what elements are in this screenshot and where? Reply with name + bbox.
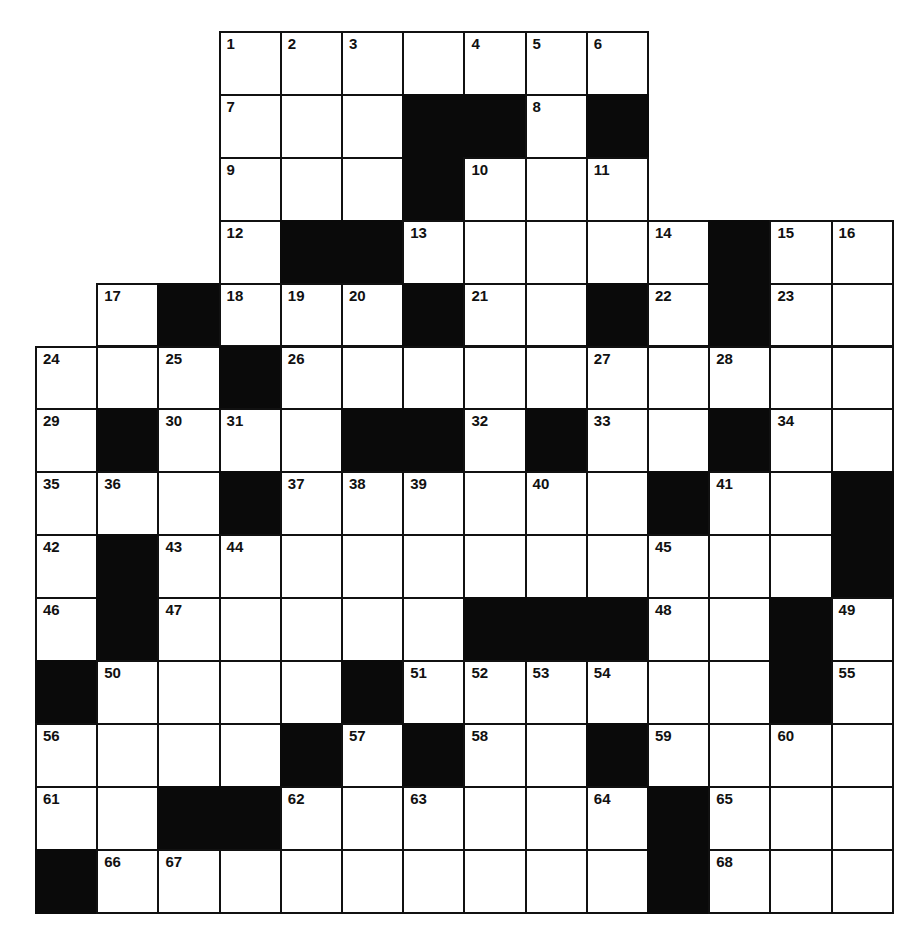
grid-cell[interactable]	[341, 849, 404, 914]
grid-cell[interactable]	[463, 534, 526, 599]
grid-cell[interactable]	[463, 471, 526, 536]
grid-cell[interactable]: 20	[341, 283, 404, 348]
grid-cell[interactable]	[280, 660, 343, 725]
grid-cell[interactable]	[831, 283, 894, 348]
grid-cell[interactable]: 53	[525, 660, 588, 725]
grid-cell[interactable]	[280, 157, 343, 222]
grid-cell[interactable]: 30	[157, 408, 220, 473]
grid-cell[interactable]: 42	[35, 534, 98, 599]
grid-cell[interactable]	[280, 94, 343, 159]
grid-cell[interactable]	[402, 597, 465, 662]
grid-cell[interactable]: 32	[463, 408, 526, 473]
grid-cell[interactable]: 4	[463, 31, 526, 96]
grid-cell[interactable]	[402, 346, 465, 411]
grid-cell[interactable]	[525, 786, 588, 851]
grid-cell[interactable]: 61	[35, 786, 98, 851]
grid-cell[interactable]: 47	[157, 597, 220, 662]
grid-cell[interactable]	[402, 849, 465, 914]
grid-cell[interactable]	[586, 534, 649, 599]
grid-cell[interactable]: 59	[647, 723, 710, 788]
grid-cell[interactable]	[219, 597, 282, 662]
grid-cell[interactable]	[341, 597, 404, 662]
grid-cell[interactable]: 16	[831, 220, 894, 285]
grid-cell[interactable]	[586, 220, 649, 285]
grid-cell[interactable]	[525, 723, 588, 788]
grid-cell[interactable]: 6	[586, 31, 649, 96]
grid-cell[interactable]	[96, 786, 159, 851]
grid-cell[interactable]: 66	[96, 849, 159, 914]
grid-cell[interactable]: 54	[586, 660, 649, 725]
grid-cell[interactable]: 1	[219, 31, 282, 96]
grid-cell[interactable]: 45	[647, 534, 710, 599]
grid-cell[interactable]: 21	[463, 283, 526, 348]
grid-cell[interactable]	[96, 723, 159, 788]
grid-cell[interactable]	[831, 408, 894, 473]
grid-cell[interactable]	[280, 534, 343, 599]
grid-cell[interactable]	[769, 346, 832, 411]
grid-cell[interactable]	[769, 786, 832, 851]
grid-cell[interactable]: 31	[219, 408, 282, 473]
grid-cell[interactable]: 36	[96, 471, 159, 536]
grid-cell[interactable]	[341, 346, 404, 411]
grid-cell[interactable]	[525, 220, 588, 285]
grid-cell[interactable]: 11	[586, 157, 649, 222]
grid-cell[interactable]	[157, 660, 220, 725]
grid-cell[interactable]	[463, 849, 526, 914]
grid-cell[interactable]	[219, 849, 282, 914]
grid-cell[interactable]	[341, 94, 404, 159]
grid-cell[interactable]: 24	[35, 346, 98, 411]
grid-cell[interactable]: 3	[341, 31, 404, 96]
grid-cell[interactable]	[341, 534, 404, 599]
grid-cell[interactable]	[525, 534, 588, 599]
grid-cell[interactable]	[647, 408, 710, 473]
grid-cell[interactable]: 23	[769, 283, 832, 348]
grid-cell[interactable]	[586, 471, 649, 536]
grid-cell[interactable]: 39	[402, 471, 465, 536]
grid-cell[interactable]: 27	[586, 346, 649, 411]
grid-cell[interactable]	[708, 597, 771, 662]
grid-cell[interactable]: 41	[708, 471, 771, 536]
grid-cell[interactable]	[525, 849, 588, 914]
grid-cell[interactable]	[647, 346, 710, 411]
grid-cell[interactable]: 22	[647, 283, 710, 348]
grid-cell[interactable]: 8	[525, 94, 588, 159]
grid-cell[interactable]	[402, 534, 465, 599]
grid-cell[interactable]: 7	[219, 94, 282, 159]
grid-cell[interactable]: 46	[35, 597, 98, 662]
grid-cell[interactable]: 33	[586, 408, 649, 473]
grid-cell[interactable]	[157, 723, 220, 788]
grid-cell[interactable]: 62	[280, 786, 343, 851]
grid-cell[interactable]: 19	[280, 283, 343, 348]
grid-cell[interactable]	[708, 534, 771, 599]
grid-cell[interactable]	[708, 723, 771, 788]
grid-cell[interactable]	[647, 660, 710, 725]
grid-cell[interactable]: 55	[831, 660, 894, 725]
grid-cell[interactable]: 40	[525, 471, 588, 536]
grid-cell[interactable]	[525, 157, 588, 222]
grid-cell[interactable]: 15	[769, 220, 832, 285]
grid-cell[interactable]: 13	[402, 220, 465, 285]
grid-cell[interactable]	[769, 534, 832, 599]
grid-cell[interactable]: 58	[463, 723, 526, 788]
grid-cell[interactable]	[280, 408, 343, 473]
grid-cell[interactable]	[586, 849, 649, 914]
grid-cell[interactable]	[219, 660, 282, 725]
grid-cell[interactable]	[463, 346, 526, 411]
grid-cell[interactable]	[831, 786, 894, 851]
grid-cell[interactable]	[341, 786, 404, 851]
grid-cell[interactable]	[219, 723, 282, 788]
grid-cell[interactable]: 49	[831, 597, 894, 662]
grid-cell[interactable]: 28	[708, 346, 771, 411]
grid-cell[interactable]	[280, 597, 343, 662]
grid-cell[interactable]: 9	[219, 157, 282, 222]
grid-cell[interactable]: 63	[402, 786, 465, 851]
grid-cell[interactable]: 64	[586, 786, 649, 851]
grid-cell[interactable]: 37	[280, 471, 343, 536]
grid-cell[interactable]: 38	[341, 471, 404, 536]
grid-cell[interactable]: 14	[647, 220, 710, 285]
grid-cell[interactable]	[157, 471, 220, 536]
grid-cell[interactable]	[831, 723, 894, 788]
grid-cell[interactable]: 2	[280, 31, 343, 96]
grid-cell[interactable]: 51	[402, 660, 465, 725]
grid-cell[interactable]: 43	[157, 534, 220, 599]
